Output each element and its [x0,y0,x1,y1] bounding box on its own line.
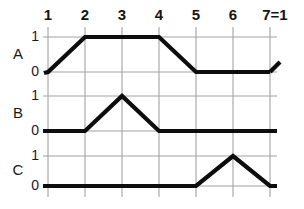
series-b-low-label: 0 [31,122,39,138]
series-label-c: C [13,161,24,178]
chart-svg: 1 2 3 4 5 6 7=1 A 1 0 B 1 0 C 1 0 [0,0,304,209]
x-tick-label-2: 2 [81,6,89,23]
series-label-a: A [13,45,23,62]
x-tick-label-5: 5 [192,6,200,23]
series-c-high-label: 1 [31,147,39,163]
series-a-high-label: 1 [31,28,39,44]
series-label-b: B [13,104,23,121]
x-tick-label-3: 3 [118,6,126,23]
series-b-high-label: 1 [31,87,39,103]
x-tick-label-1: 1 [44,6,52,23]
series-a-low-label: 0 [31,63,39,79]
x-tick-label-6: 6 [229,6,237,23]
series-c-low-label: 0 [31,177,39,193]
waveform-chart: 1 2 3 4 5 6 7=1 A 1 0 B 1 0 C 1 0 [0,0,304,209]
x-tick-label-7: 7=1 [262,6,287,23]
x-tick-label-4: 4 [155,6,164,23]
